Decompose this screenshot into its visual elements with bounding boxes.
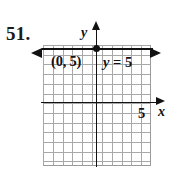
equation-label: y = 5 <box>103 55 132 70</box>
x-axis-tick-label-5: 5 <box>138 106 145 121</box>
line-arrow-left-icon <box>31 48 42 58</box>
line-arrow-right-icon <box>150 48 161 58</box>
graph-figure: 51. y x (0, 5) y = 5 5 <box>0 0 172 185</box>
point-coordinate-label: (0, 5) <box>51 54 81 69</box>
y-axis-label: y <box>81 26 87 40</box>
problem-number: 51. <box>6 24 30 43</box>
equation-rest: = 5 <box>109 54 132 70</box>
y-axis-arrow-icon <box>92 21 100 30</box>
x-axis <box>41 102 158 103</box>
x-axis-label: x <box>158 105 165 119</box>
